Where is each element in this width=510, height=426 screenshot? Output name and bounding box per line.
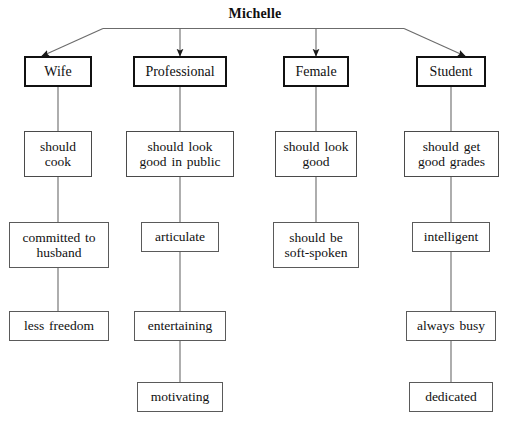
attribute-node-professional-4[interactable]: motivating <box>137 382 223 412</box>
attribute-node-wife-1[interactable]: should cook <box>24 131 92 177</box>
arrow-to-wife <box>42 29 103 57</box>
arrow-to-student <box>404 29 465 57</box>
attribute-node-professional-3[interactable]: entertaining <box>134 311 226 341</box>
role-node-female[interactable]: Female <box>283 56 349 87</box>
attribute-node-wife-2[interactable]: committed to husband <box>9 222 109 268</box>
attribute-node-professional-2[interactable]: articulate <box>141 222 219 252</box>
diagram-canvas: Michelle Wife Professional Female Studen… <box>0 0 510 426</box>
attribute-node-student-3[interactable]: always busy <box>406 311 496 341</box>
attribute-node-student-1[interactable]: should get good grades <box>404 131 499 177</box>
attribute-node-student-2[interactable]: intelligent <box>412 222 490 252</box>
role-node-student[interactable]: Student <box>416 56 486 87</box>
attribute-node-female-1[interactable]: should look good <box>275 131 357 177</box>
attribute-node-wife-3[interactable]: less freedom <box>9 311 109 341</box>
role-node-professional[interactable]: Professional <box>133 56 227 87</box>
attribute-node-female-2[interactable]: should be soft-spoken <box>273 222 359 268</box>
role-node-wife[interactable]: Wife <box>24 56 92 87</box>
attribute-node-student-4[interactable]: dedicated <box>409 382 493 412</box>
attribute-node-professional-1[interactable]: should look good in public <box>126 131 234 177</box>
root-node-michelle: Michelle <box>0 6 510 22</box>
